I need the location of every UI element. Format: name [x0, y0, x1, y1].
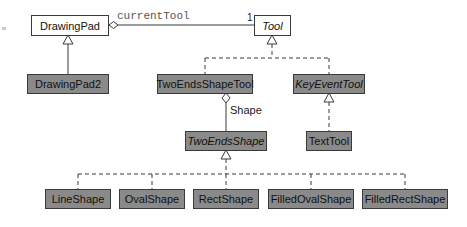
role-label-current-tool: currentTool	[117, 10, 190, 22]
realization-triangle-twoendsshape	[221, 150, 231, 159]
class-ovalshape[interactable]: OvalShape	[119, 189, 185, 209]
aggregation-diamond-drawingpad	[109, 22, 118, 29]
class-texttool[interactable]: TextTool	[306, 131, 352, 151]
class-drawingpad2[interactable]: DrawingPad2	[27, 74, 109, 94]
class-twoendsshape[interactable]: TwoEndsShape	[185, 131, 267, 151]
aggregation-diamond-twoendsshapetool	[222, 93, 230, 103]
class-keyeventtool[interactable]: KeyEventTool	[293, 74, 365, 94]
class-tool[interactable]: Tool	[254, 15, 291, 36]
role-label-shape: Shape	[230, 104, 262, 116]
margin-mark	[2, 27, 6, 30]
class-rectshape[interactable]: RectShape	[193, 189, 259, 209]
class-filledrectshape[interactable]: FilledRectShape	[362, 189, 448, 209]
class-lineshape[interactable]: LineShape	[45, 189, 111, 209]
class-filledovalshape[interactable]: FilledOvalShape	[268, 189, 354, 209]
class-twoendsshapetool[interactable]: TwoEndsShapeTool	[157, 74, 253, 94]
class-drawingpad[interactable]: DrawingPad	[31, 15, 109, 36]
realization-triangle-keyeventtool	[324, 93, 334, 102]
multiplicity-label: 1	[247, 12, 253, 23]
realization-triangle-tool	[267, 35, 277, 44]
generalization-triangle-drawingpad	[63, 35, 73, 44]
